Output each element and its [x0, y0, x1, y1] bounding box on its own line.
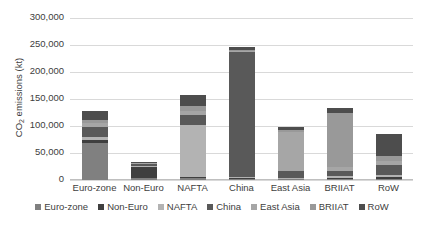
segment-row — [82, 111, 108, 119]
y-axis-title: CO2 emissions (kt) — [13, 18, 24, 178]
legend-item-east-asia[interactable]: East Asia — [251, 201, 300, 212]
y-axis-title-suffix: emissions (kt) — [13, 58, 24, 119]
x-label-nafta: NAFTA — [168, 182, 217, 193]
segment-china — [229, 52, 255, 177]
legend-item-label: China — [216, 201, 241, 212]
segment-china — [180, 115, 206, 125]
legend-swatch-icon — [98, 204, 104, 210]
segment-euro-zone — [82, 143, 108, 180]
y-axis-title-subscript: 2 — [18, 119, 25, 123]
legend-item-label: East Asia — [260, 201, 300, 212]
legend-swatch-icon — [251, 204, 257, 210]
legend-item-label: Non-Euro — [107, 201, 148, 212]
segment-briiat — [327, 113, 353, 168]
legend-swatch-icon — [35, 204, 41, 210]
segment-china — [82, 127, 108, 137]
bar-briiat[interactable] — [327, 108, 353, 180]
segment-euro-zone — [278, 179, 304, 180]
bar-euro-zone[interactable] — [82, 111, 108, 180]
legend-item-briiat[interactable]: BRIIAT — [310, 201, 349, 212]
segment-east-asia — [278, 132, 304, 171]
legend-swatch-icon — [207, 204, 213, 210]
segment-euro-zone — [180, 178, 206, 180]
legend-swatch-icon — [359, 204, 365, 210]
segment-euro-zone — [327, 179, 353, 180]
segment-china — [376, 165, 402, 174]
legend-item-nafta[interactable]: NAFTA — [158, 201, 197, 212]
y-axis-title-prefix: CO — [13, 123, 24, 137]
legend-item-label: NAFTA — [167, 201, 197, 212]
co2-emissions-stacked-bar-chart: CO2 emissions (kt) 300,000250,000200,000… — [0, 0, 424, 231]
segment-euro-zone — [131, 178, 157, 180]
legend-item-euro-zone[interactable]: Euro-zone — [35, 201, 88, 212]
x-axis-category-labels: Euro-zoneNon-EuroNAFTAChinaEast AsiaBRII… — [70, 181, 413, 197]
legend-item-label: BRIIAT — [319, 201, 349, 212]
chart-legend: Euro-zoneNon-EuroNAFTAChinaEast AsiaBRII… — [0, 201, 424, 212]
x-label-china: China — [217, 182, 266, 193]
segment-nafta — [180, 125, 206, 177]
bar-row[interactable] — [376, 134, 402, 180]
legend-swatch-icon — [310, 204, 316, 210]
y-tick-label-text: 50,000 — [35, 146, 64, 157]
x-label-non-euro: Non-Euro — [119, 182, 168, 193]
legend-item-non-euro[interactable]: Non-Euro — [98, 201, 148, 212]
y-tick-label-text: 200,000 — [30, 65, 64, 76]
y-tick-label-text: 150,000 — [30, 92, 64, 103]
y-tick-label-text: 0 — [59, 173, 64, 184]
plot-area — [70, 18, 413, 180]
segment-euro-zone — [376, 179, 402, 180]
x-label-east-asia: East Asia — [266, 182, 315, 193]
x-label-row: RoW — [364, 182, 413, 193]
segment-row — [180, 95, 206, 106]
x-label-briiat: BRIIAT — [315, 182, 364, 193]
legend-item-china[interactable]: China — [207, 201, 241, 212]
y-tick-label-text: 250,000 — [30, 38, 64, 49]
bar-east-asia[interactable] — [278, 127, 304, 180]
bar-china[interactable] — [229, 47, 255, 180]
x-label-euro-zone: Euro-zone — [70, 182, 119, 193]
legend-item-label: Euro-zone — [44, 201, 88, 212]
legend-swatch-icon — [158, 204, 164, 210]
y-tick-label-text: 100,000 — [30, 119, 64, 130]
bar-non-euro[interactable] — [131, 162, 157, 180]
bars-layer — [70, 18, 413, 180]
segment-row — [376, 134, 402, 156]
legend-item-label: RoW — [368, 201, 389, 212]
segment-non-euro — [131, 167, 157, 178]
segment-euro-zone — [229, 179, 255, 180]
bar-nafta[interactable] — [180, 95, 206, 180]
legend-item-row[interactable]: RoW — [359, 201, 389, 212]
y-tick-label-text: 300,000 — [30, 11, 64, 22]
